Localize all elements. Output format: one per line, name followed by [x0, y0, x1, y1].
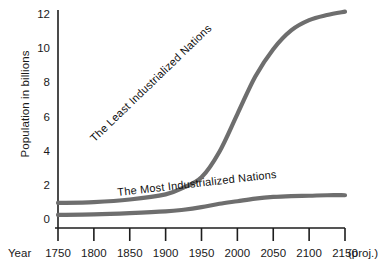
x-axis-tick-label: 2050: [256, 248, 290, 260]
x-axis-tick-label: 1950: [185, 248, 219, 260]
x-axis-label-row: Year (proj.) 175018001850190019502000205…: [0, 248, 387, 261]
x-axis-title: Year: [8, 248, 31, 260]
x-axis-tick-label: 1850: [113, 248, 147, 260]
x-axis-tick-label: 1750: [41, 248, 75, 260]
x-axis-tick-label: 1800: [77, 248, 111, 260]
x-axis-tick-label: 2000: [220, 248, 254, 260]
x-axis-tick-label: 2100: [292, 248, 326, 260]
x-axis-tick-label: 2150: [328, 248, 362, 260]
x-axis-tick-label: 1900: [149, 248, 183, 260]
series-curve-most-industrialized: [58, 195, 345, 215]
x-axis-ticks: [58, 228, 345, 241]
chart-figure: Population in billions 024681012 The Lea…: [0, 0, 387, 261]
